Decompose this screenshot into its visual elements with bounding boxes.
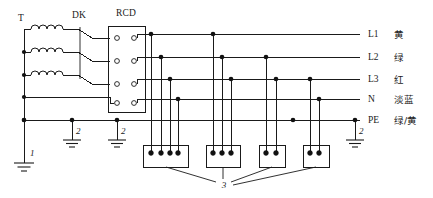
outlet-box[interactable] [206,145,240,167]
bus-label-l3: L3 [368,74,379,84]
bus-color-n: 淡蓝 [394,94,414,105]
bus-color-l1: 黄 [394,29,404,40]
drops-outlet-2 [211,32,234,152]
rcd-label: RCD [116,8,136,18]
pe-tap-node [291,118,296,123]
earth-callout-main: 1 [30,148,35,158]
bus-color-pe: 绿/黄 [394,115,417,126]
bus-color-l2: 绿 [394,52,404,63]
drops-outlet-3 [264,55,279,152]
drops-outlet-4 [308,77,322,152]
outlet-callout-leaders [166,167,316,185]
bus-label-pe: PE [368,115,379,125]
earth-callout-repeated: 2 [359,126,364,136]
outlet-box[interactable] [143,145,188,167]
outlet-box[interactable] [259,145,285,167]
transformer-label: T [18,13,24,23]
schematic-canvas: T DK RCD L1 黄 L2 绿 L3 红 N 淡蓝 PE 绿/黄 1 2 … [0,0,433,198]
main-earth-electrode [14,118,34,171]
bus-label-l1: L1 [368,29,379,39]
transformer-group [22,25,72,163]
earth-callout-repeated: 2 [76,126,81,136]
isolator-label: DK [72,10,86,20]
bus-color-l3: 红 [394,74,404,85]
bus-label-l2: L2 [368,52,379,62]
earth-callout-repeated: 2 [121,126,126,136]
drops-outlet-1 [149,32,181,152]
rcd-terminals [115,36,137,106]
bus-label-n: N [368,94,375,104]
isolator-switch-dk[interactable] [72,27,110,84]
wiring-diagram: T DK RCD L1 黄 L2 绿 L3 红 N 淡蓝 PE 绿/黄 1 2 … [0,0,433,198]
outlet-box[interactable] [303,145,329,167]
outlet-callout: 3 [221,180,227,190]
